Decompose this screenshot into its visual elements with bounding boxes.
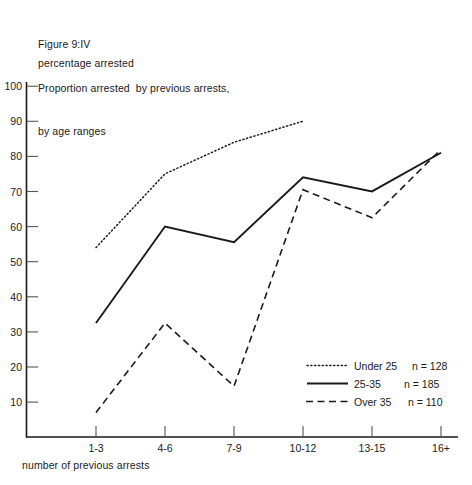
y-tick-label-40: 40: [10, 291, 22, 303]
legend-count-25-35: n = 185: [404, 378, 439, 390]
legend-count-over-35: n = 110: [408, 396, 443, 408]
y-tick-label-100: 100: [4, 80, 22, 92]
line-chart-plot: 100 90 80 70 60 50 40 30 20 10 1-3 4-6 7…: [0, 0, 472, 485]
y-tick-label-60: 60: [10, 221, 22, 233]
y-tick-label-80: 80: [10, 150, 22, 162]
y-tick-label-30: 30: [10, 326, 22, 338]
figure-container: Figure 9:IV Proportion arrested by previ…: [0, 0, 472, 485]
y-tick-label-10: 10: [10, 396, 22, 408]
chart-legend: Under 25 n = 128 25-35 n = 185 Over 35 n…: [306, 360, 447, 408]
y-axis-tick-labels: 100 90 80 70 60 50 40 30 20 10: [4, 80, 22, 408]
x-tick-label-13-15: 13-15: [359, 442, 386, 454]
y-tick-label-50: 50: [10, 256, 22, 268]
x-axis-ticks: [96, 426, 441, 436]
x-tick-label-7-9: 7-9: [226, 442, 241, 454]
x-tick-label-10-12: 10-12: [290, 442, 317, 454]
legend-label-25-35: 25-35: [354, 378, 381, 390]
y-axis-ticks: [27, 86, 38, 402]
x-tick-label-16-plus: 16+: [432, 442, 450, 454]
series-line-over-35: [96, 149, 441, 412]
x-tick-label-1-3: 1-3: [88, 442, 103, 454]
y-tick-label-70: 70: [10, 186, 22, 198]
series-line-under-25: [96, 121, 303, 247]
legend-count-under-25: n = 128: [412, 360, 447, 372]
y-tick-label-90: 90: [10, 115, 22, 127]
series-line-25-35: [96, 153, 441, 323]
y-tick-label-20: 20: [10, 361, 22, 373]
legend-label-under-25: Under 25: [354, 360, 397, 372]
x-axis-tick-labels: 1-3 4-6 7-9 10-12 13-15 16+: [88, 442, 450, 454]
x-tick-label-4-6: 4-6: [157, 442, 172, 454]
legend-label-over-35: Over 35: [354, 396, 392, 408]
